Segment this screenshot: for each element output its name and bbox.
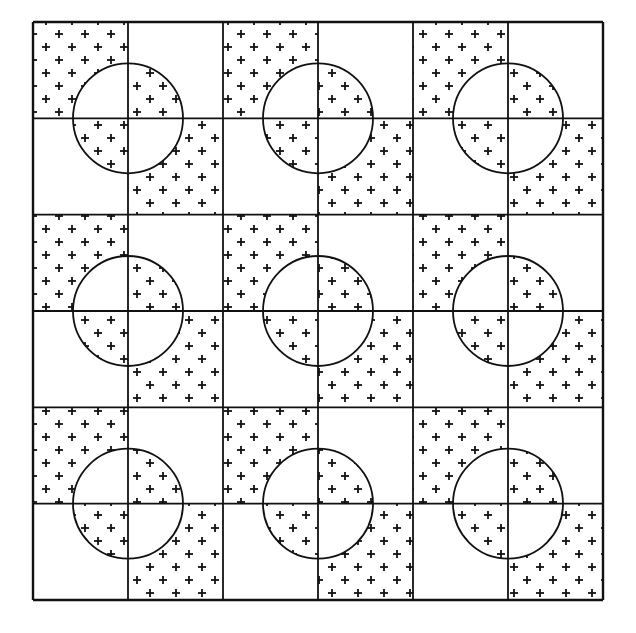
checker-circle-illusion-figure [0, 0, 636, 633]
